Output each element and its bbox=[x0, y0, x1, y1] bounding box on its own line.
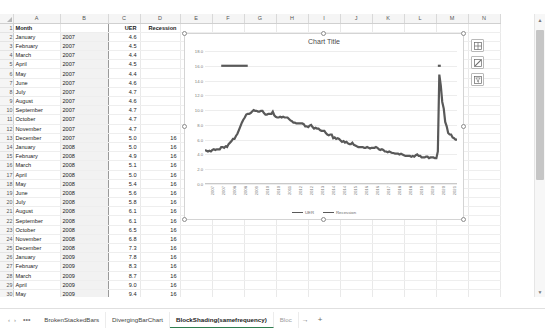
row-header[interactable]: 29 bbox=[0, 280, 13, 289]
row-header[interactable]: 26 bbox=[0, 253, 13, 262]
cell-year[interactable]: 2008 bbox=[60, 170, 108, 179]
row-header[interactable]: 2 bbox=[0, 32, 13, 41]
cell-recession[interactable]: 16 bbox=[140, 142, 180, 151]
row-header[interactable]: 15 bbox=[0, 152, 13, 161]
cell-uer[interactable]: 4.7 bbox=[108, 106, 140, 115]
cell-empty[interactable] bbox=[468, 253, 500, 262]
table-row[interactable]: 24November20086.816 bbox=[0, 234, 500, 243]
add-sheet-button[interactable]: + bbox=[312, 315, 329, 324]
cell-uer[interactable]: 7.8 bbox=[108, 253, 140, 262]
cell-empty[interactable] bbox=[180, 271, 212, 280]
cell-month[interactable]: November bbox=[13, 234, 60, 243]
cell-month[interactable]: March bbox=[13, 161, 60, 170]
cell-empty[interactable] bbox=[372, 23, 404, 32]
row-header[interactable]: 5 bbox=[0, 60, 13, 69]
cell-empty[interactable] bbox=[436, 234, 468, 243]
cell-empty[interactable] bbox=[276, 244, 308, 253]
cell-uer[interactable]: 5.6 bbox=[108, 188, 140, 197]
cell-uer[interactable]: UER bbox=[108, 23, 140, 32]
cell-recession[interactable] bbox=[140, 60, 180, 69]
cell-uer[interactable]: 4.7 bbox=[108, 124, 140, 133]
cell-empty[interactable] bbox=[244, 225, 276, 234]
cell-empty[interactable] bbox=[468, 152, 500, 161]
vertical-scroll-thumb[interactable] bbox=[536, 30, 544, 180]
cell-empty[interactable] bbox=[244, 234, 276, 243]
cell-empty[interactable] bbox=[276, 253, 308, 262]
cell-empty[interactable] bbox=[308, 234, 340, 243]
cell-empty[interactable] bbox=[276, 225, 308, 234]
cell-year[interactable]: 2008 bbox=[60, 142, 108, 151]
cell-year[interactable]: 2007 bbox=[60, 106, 108, 115]
cell-empty[interactable] bbox=[404, 280, 436, 289]
chart-handle-top-middle[interactable] bbox=[321, 31, 326, 36]
column-header-i[interactable]: I bbox=[308, 14, 340, 23]
cell-recession[interactable]: 16 bbox=[140, 271, 180, 280]
cell-uer[interactable]: 6.5 bbox=[108, 225, 140, 234]
cell-empty[interactable] bbox=[468, 262, 500, 271]
column-header-b[interactable]: B bbox=[60, 14, 108, 23]
cell-year[interactable]: 2009 bbox=[60, 253, 108, 262]
cell-empty[interactable] bbox=[468, 161, 500, 170]
cell-empty[interactable] bbox=[404, 234, 436, 243]
cell-empty[interactable] bbox=[372, 262, 404, 271]
cell-empty[interactable] bbox=[244, 244, 276, 253]
cell-recession[interactable]: 16 bbox=[140, 289, 180, 297]
cell-recession[interactable] bbox=[140, 51, 180, 60]
cell-empty[interactable] bbox=[244, 253, 276, 262]
cell-empty[interactable] bbox=[404, 23, 436, 32]
cell-empty[interactable] bbox=[404, 253, 436, 262]
cell-empty[interactable] bbox=[244, 23, 276, 32]
cell-month[interactable]: May bbox=[13, 179, 60, 188]
cell-month[interactable]: September bbox=[13, 216, 60, 225]
cell-recession[interactable]: 16 bbox=[140, 253, 180, 262]
cell-empty[interactable] bbox=[404, 225, 436, 234]
column-header-k[interactable]: K bbox=[372, 14, 404, 23]
select-all-corner[interactable] bbox=[0, 14, 13, 23]
cell-empty[interactable] bbox=[468, 198, 500, 207]
cell-uer[interactable]: 4.6 bbox=[108, 32, 140, 41]
cell-empty[interactable] bbox=[468, 23, 500, 32]
cell-year[interactable]: 2007 bbox=[60, 124, 108, 133]
cell-year[interactable]: 2008 bbox=[60, 234, 108, 243]
cell-month[interactable]: February bbox=[13, 152, 60, 161]
cell-year[interactable]: 2008 bbox=[60, 152, 108, 161]
row-header[interactable]: 12 bbox=[0, 124, 13, 133]
table-row[interactable]: 27February20098.316 bbox=[0, 262, 500, 271]
cell-year[interactable]: 2008 bbox=[60, 188, 108, 197]
column-header-d[interactable]: D bbox=[140, 14, 180, 23]
table-row[interactable]: 23October20086.516 bbox=[0, 225, 500, 234]
sheet-tab-bar[interactable]: ‹ › ••• BrokenStackedBarsDivergingBarCha… bbox=[0, 308, 545, 330]
cell-empty[interactable] bbox=[468, 188, 500, 197]
cell-year[interactable]: 2008 bbox=[60, 225, 108, 234]
cell-empty[interactable] bbox=[244, 271, 276, 280]
row-header[interactable]: 20 bbox=[0, 198, 13, 207]
cell-empty[interactable] bbox=[340, 271, 372, 280]
chart-handle-top-right[interactable] bbox=[461, 31, 466, 36]
cell-empty[interactable] bbox=[436, 225, 468, 234]
cell-year[interactable]: 2007 bbox=[60, 51, 108, 60]
cell-empty[interactable] bbox=[308, 289, 340, 297]
cell-empty[interactable] bbox=[340, 234, 372, 243]
cell-month[interactable]: August bbox=[13, 207, 60, 216]
cell-empty[interactable] bbox=[468, 289, 500, 297]
tab-nav-next-icon[interactable]: › bbox=[14, 317, 16, 323]
cell-empty[interactable] bbox=[436, 253, 468, 262]
cell-empty[interactable] bbox=[404, 289, 436, 297]
cell-uer[interactable]: 9.0 bbox=[108, 280, 140, 289]
cell-recession[interactable]: 16 bbox=[140, 216, 180, 225]
cell-empty[interactable] bbox=[468, 216, 500, 225]
row-header[interactable]: 8 bbox=[0, 87, 13, 96]
cell-empty[interactable] bbox=[372, 225, 404, 234]
cell-empty[interactable] bbox=[212, 253, 244, 262]
cell-empty[interactable] bbox=[244, 262, 276, 271]
cell-empty[interactable] bbox=[212, 271, 244, 280]
cell-uer[interactable]: 8.7 bbox=[108, 271, 140, 280]
row-header[interactable]: 18 bbox=[0, 179, 13, 188]
cell-empty[interactable] bbox=[276, 234, 308, 243]
cell-month[interactable]: September bbox=[13, 106, 60, 115]
cell-empty[interactable] bbox=[180, 234, 212, 243]
row-header[interactable]: 7 bbox=[0, 78, 13, 87]
cell-recession[interactable]: 16 bbox=[140, 234, 180, 243]
cell-empty[interactable] bbox=[468, 87, 500, 96]
column-header-c[interactable]: C bbox=[108, 14, 140, 23]
